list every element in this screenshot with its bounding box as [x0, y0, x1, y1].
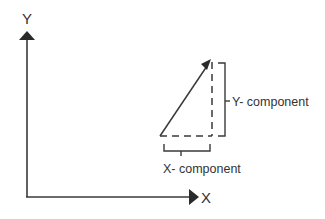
- x-axis-arrowhead-icon: [189, 189, 199, 205]
- resultant-vector: [160, 59, 211, 136]
- x-component-bracket: [164, 144, 210, 156]
- x-axis-label: X: [201, 189, 211, 206]
- y-axis-label: Y: [22, 10, 32, 27]
- y-component-label: Y- component: [232, 95, 309, 109]
- vector-arrowhead-icon: [201, 59, 211, 70]
- y-axis-arrowhead-icon: [19, 31, 35, 40]
- y-axis: Y: [19, 10, 35, 197]
- vector-diagram: Y X Y- component X- component: [0, 0, 325, 219]
- y-component-bracket: [218, 63, 230, 136]
- x-axis: X: [26, 189, 211, 206]
- x-component-label: X- component: [163, 162, 241, 176]
